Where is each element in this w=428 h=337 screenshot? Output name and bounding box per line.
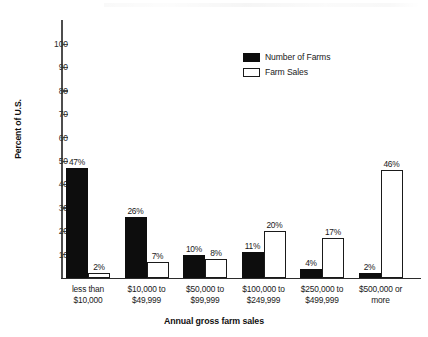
bar: 7%	[147, 262, 169, 278]
bar-value-label: 10%	[186, 245, 202, 254]
legend-swatch-outlined-icon	[243, 68, 260, 77]
x-axis-category-label-line: $500,000 or	[342, 284, 420, 295]
x-axis-category-label-line: more	[342, 295, 420, 306]
legend-item-farm-sales: Farm Sales	[243, 66, 330, 79]
bar: 2%	[359, 273, 381, 278]
y-axis-tick-label: 80	[42, 87, 68, 96]
bar-value-label: 4%	[305, 259, 317, 268]
x-axis-title: Annual gross farm sales	[0, 316, 428, 326]
chart-legend: Number of Farms Farm Sales	[243, 51, 330, 81]
y-axis-tick-label: 20	[42, 227, 68, 236]
bar: 47%	[66, 168, 88, 278]
y-axis-tick-label: 70	[42, 110, 68, 119]
y-axis-tick-label: 10	[42, 251, 68, 260]
legend-swatch-filled-icon	[243, 53, 260, 62]
y-axis-tick-label: 50	[42, 157, 68, 166]
bar-value-label: 2%	[364, 263, 376, 272]
y-axis-line	[61, 20, 63, 279]
bar-value-label: 20%	[266, 221, 282, 230]
y-axis-tick-label: 60	[42, 134, 68, 143]
bar: 20%	[264, 231, 286, 278]
bar: 8%	[205, 259, 227, 278]
legend-label: Number of Farms	[265, 53, 330, 62]
legend-item-number-of-farms: Number of Farms	[243, 51, 330, 64]
bar-value-label: 46%	[383, 160, 399, 169]
grouped-bar-chart: 100908070605040302010 Percent of U.S. 47…	[0, 0, 428, 337]
y-axis-tick-label: 90	[42, 63, 68, 72]
bar: 17%	[322, 238, 344, 278]
bar: 10%	[183, 255, 205, 278]
bar-value-label: 11%	[245, 242, 261, 251]
y-axis-tick-label: 100	[42, 40, 68, 49]
bar-value-label: 47%	[69, 158, 85, 167]
bar-value-label: 2%	[93, 263, 105, 272]
bar: 46%	[381, 170, 403, 278]
x-axis-category-label: $500,000 ormore	[342, 284, 420, 305]
bar-value-label: 8%	[210, 249, 222, 258]
bar: 26%	[125, 217, 147, 278]
bar-value-label: 7%	[152, 252, 164, 261]
bar: 4%	[300, 269, 322, 278]
y-axis-tick-label: 30	[42, 204, 68, 213]
bar: 2%	[88, 273, 110, 278]
bar: 11%	[242, 252, 264, 278]
x-axis-line	[61, 278, 421, 279]
bar-value-label: 17%	[325, 228, 341, 237]
y-axis-tick-label: 40	[42, 180, 68, 189]
legend-label: Farm Sales	[265, 68, 308, 77]
y-axis-title: Percent of U.S.	[13, 93, 23, 165]
bar-value-label: 26%	[127, 207, 143, 216]
